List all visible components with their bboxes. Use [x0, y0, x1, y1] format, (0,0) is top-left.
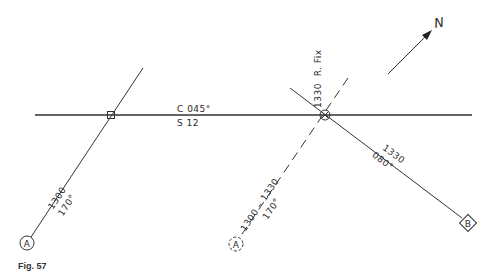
landmark-a-advanced-label: A [233, 240, 240, 250]
running-fix: 1330 R. Fix [313, 49, 330, 120]
landmark-a: A [20, 236, 34, 250]
running-fix-diagram: C 045° S 12 1300 170° A 1300 – 1330 170°… [0, 0, 500, 280]
speed-label: S 12 [177, 118, 199, 128]
landmark-b-label: B [465, 219, 472, 229]
fix-label: 1330 R. Fix [313, 49, 323, 108]
lop-a-line: 1300 170° A [20, 68, 143, 250]
north-arrow: N [388, 14, 445, 74]
north-label: N [433, 14, 445, 31]
figure-caption: Fig. 57 [18, 261, 47, 271]
lop-a-advanced-line: 1300 – 1330 170° A [229, 78, 348, 251]
lop-b-line: 1330 080° B [290, 88, 476, 231]
course-line: C 045° S 12 [35, 104, 472, 128]
landmark-b: B [460, 215, 477, 232]
landmark-a-advanced: A [229, 237, 243, 251]
course-label: C 045° [177, 104, 211, 114]
landmark-a-label: A [24, 239, 31, 249]
